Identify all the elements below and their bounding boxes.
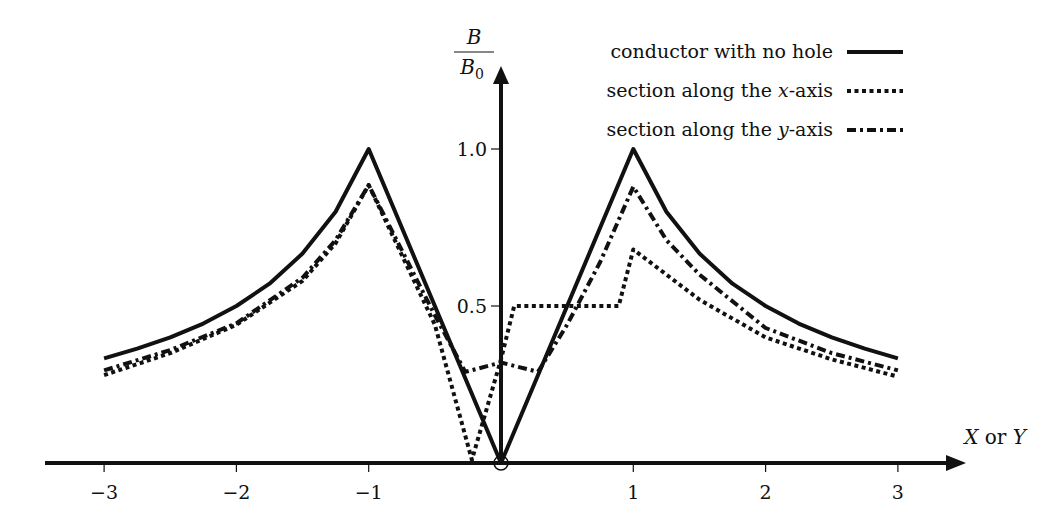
x-axis-label-part: or [978,425,1012,449]
legend-label: section along the x-axis [606,79,833,101]
y-ticks: 0.51.0 [457,138,501,317]
legend-label-part: x [778,79,789,101]
y-tick-label: 1.0 [457,138,487,160]
x-tick-label: 3 [892,481,904,503]
legend-item-section-along-the-x-axis: section along the x-axis [606,79,903,101]
x-tick-label: −1 [355,481,383,503]
legend-label-part: -axis [789,118,833,140]
x-tick-label: −2 [222,481,250,503]
x-tick-label: 1 [627,481,639,503]
legend-label: section along the y-axis [606,118,833,140]
legend-label: conductor with no hole [610,40,833,62]
legend: conductor with no holesection along the … [606,40,903,140]
x-axis-arrow-icon [946,455,966,471]
y-axis-label-numerator: B [466,25,482,49]
legend-label-part: y [777,118,789,140]
y-axis-label-denominator: B0 [459,55,484,82]
y-axis-label-den-subscript: 0 [475,66,484,82]
legend-label-part: conductor with no hole [610,40,833,62]
y-axis-arrow-icon [493,66,509,84]
chart: −3−2−1123 0.51.0 X or Y B B0 conductor w… [0,0,1037,530]
x-tick-label: 2 [760,481,772,503]
legend-label-part: -axis [789,79,833,101]
x-axis-label: X or Y [962,425,1028,449]
legend-label-part: section along the [606,118,778,140]
legend-label-part: section along the [606,79,778,101]
legend-item-conductor-with-no-hole: conductor with no hole [610,40,903,62]
x-axis-label-part: Y [1013,425,1028,449]
legend-item-section-along-the-y-axis: section along the y-axis [606,118,903,140]
y-axis-label: B B0 [454,25,494,82]
x-tick-label: −3 [90,481,118,503]
y-axis-label-den-main: B [459,55,475,79]
x-axis-label-part: X [962,425,979,449]
y-tick-label: 0.5 [457,295,487,317]
